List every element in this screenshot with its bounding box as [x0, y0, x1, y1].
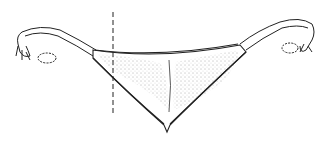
anatomical-diagram: [0, 0, 334, 146]
left-ovary: [38, 53, 56, 63]
uterus-illustration: [0, 0, 334, 146]
right-ovary: [282, 43, 298, 53]
left-fallopian-tube: [16, 27, 96, 60]
right-fallopian-tube: [240, 19, 314, 52]
